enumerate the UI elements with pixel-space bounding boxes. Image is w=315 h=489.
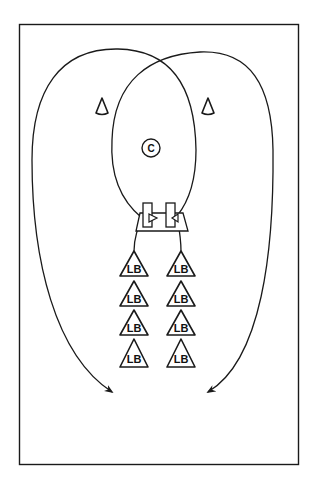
cone-icon — [202, 98, 214, 115]
svg-text:LB: LB — [174, 322, 189, 334]
left-lb-route — [112, 52, 273, 392]
drill-diagram: C LB LB LB LB LB LB LB LB — [0, 0, 315, 489]
lb-player: LB — [167, 310, 195, 335]
field-border — [20, 25, 299, 465]
lb-player: LB — [167, 281, 195, 306]
svg-text:LB: LB — [127, 293, 142, 305]
lb-player: LB — [167, 339, 195, 367]
coach-marker: C — [142, 139, 160, 157]
svg-text:LB: LB — [127, 353, 142, 365]
bag-station — [136, 203, 188, 231]
lb-player: LB — [167, 251, 195, 276]
coach-label: C — [147, 143, 154, 154]
lb-left-column: LB LB LB LB — [120, 251, 148, 367]
lb-right-column: LB LB LB LB — [167, 251, 195, 367]
right-bag — [166, 203, 175, 227]
svg-text:LB: LB — [127, 322, 142, 334]
svg-text:LB: LB — [174, 293, 189, 305]
lb-player: LB — [120, 339, 148, 367]
svg-text:LB: LB — [174, 353, 189, 365]
cone-icon — [96, 98, 108, 115]
lb-player: LB — [120, 251, 148, 276]
svg-text:LB: LB — [127, 263, 142, 275]
lb-player: LB — [120, 310, 148, 335]
svg-text:LB: LB — [174, 263, 189, 275]
lb-player: LB — [120, 281, 148, 306]
